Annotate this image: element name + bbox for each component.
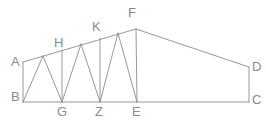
vertex-label-Z: Z — [95, 105, 103, 118]
vertex-label-H: H — [54, 36, 63, 49]
vertex-label-E: E — [132, 105, 141, 118]
vertex-label-C: C — [252, 93, 261, 106]
truss-diagram: ABHKFDCGZE — [0, 0, 266, 125]
vertex-label-B: B — [11, 90, 20, 103]
truss-edge-web-G-T2 — [62, 44, 81, 102]
truss-edge-top-chord-FD — [136, 29, 249, 67]
truss-edge-web-B-T1 — [23, 56, 43, 102]
truss-edge-web-T2-Z — [81, 44, 100, 102]
truss-edge-web-Z-T3 — [100, 33, 118, 102]
truss-edge-top-chord-AF — [23, 29, 136, 62]
vertex-label-K: K — [92, 20, 101, 33]
vertex-label-G: G — [57, 105, 67, 118]
vertex-label-D: D — [252, 60, 261, 73]
vertex-label-F: F — [128, 6, 136, 19]
truss-edge-web-T3-E — [118, 33, 137, 102]
truss-edge-post-F-E — [136, 29, 137, 102]
vertex-label-A: A — [11, 55, 20, 68]
truss-edge-web-T1-G — [43, 56, 62, 102]
